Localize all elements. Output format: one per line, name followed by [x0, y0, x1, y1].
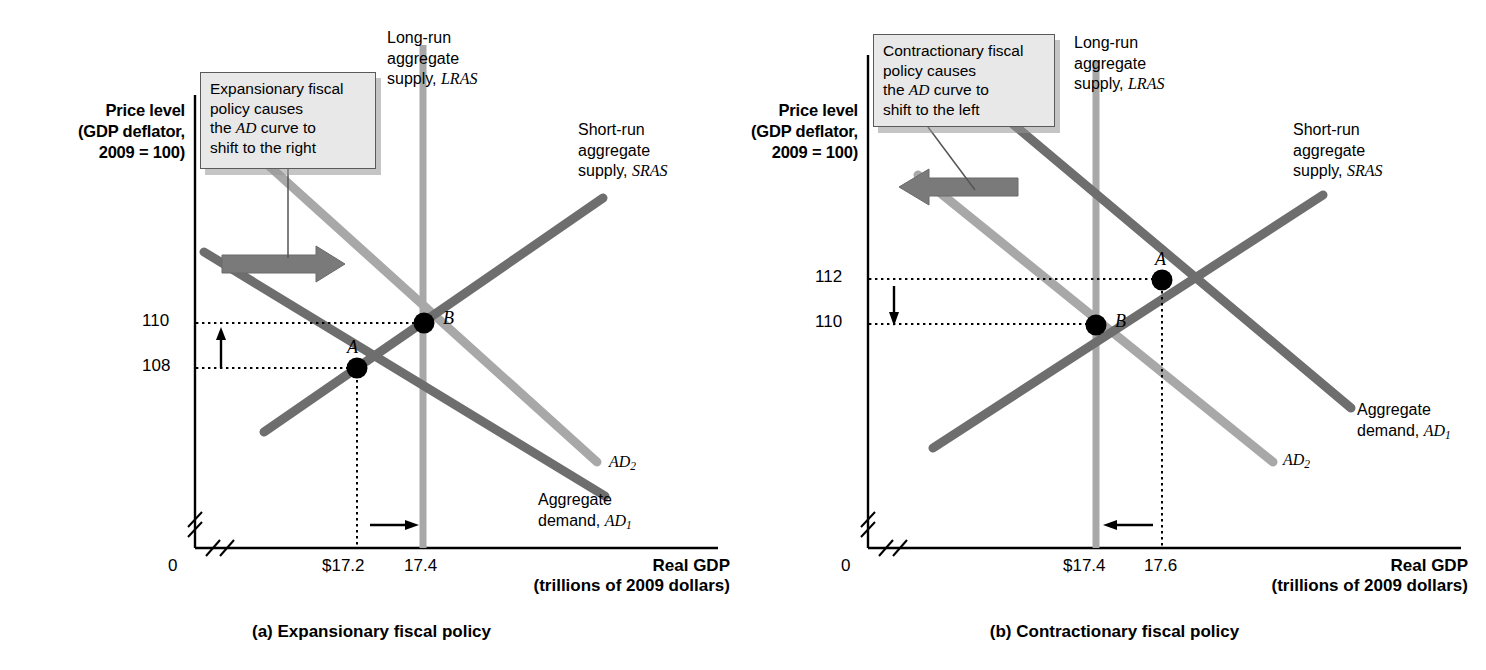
ad2-label: AD2 [609, 452, 636, 477]
ad1-label-line2: demand, AD1 [538, 511, 632, 536]
y-tick-110: 110 [142, 311, 169, 331]
sras-label: Short-run aggregate supply, SRAS [1293, 120, 1383, 182]
point-b-marker [1086, 315, 1107, 336]
origin-label: 0 [841, 556, 850, 576]
figure-root: Price level (GDP deflator, 2009 = 100) 1… [0, 0, 1486, 670]
callout-line3: the AD curve to [210, 118, 367, 138]
ad1-label-line2: demand, AD1 [1357, 421, 1451, 446]
gdp-decrease-arrow-head [1103, 520, 1117, 530]
price-decrease-arrow-head [889, 312, 899, 326]
point-b-label: B [443, 308, 454, 329]
price-increase-arrow-head [216, 327, 226, 340]
point-a-label: A [1155, 249, 1166, 270]
origin-label: 0 [168, 556, 177, 576]
panel-contractionary: Price level (GDP deflator, 2009 = 100) 1… [743, 0, 1486, 670]
point-a-marker [347, 358, 368, 379]
x-axis-title: Real GDP (trillions of 2009 dollars) [1198, 556, 1468, 596]
y-tick-112: 112 [815, 267, 842, 287]
point-a-marker [1152, 270, 1173, 291]
sras-label: Short-run aggregate supply, SRAS [578, 120, 668, 182]
x-tick-17-2: $17.2 [322, 556, 365, 576]
x-axis-title: Real GDP (trillions of 2009 dollars) [460, 556, 730, 596]
lras-label: Long-run aggregate supply, LRAS [387, 28, 477, 90]
sras-label-line3: supply, SRAS [1293, 161, 1383, 182]
ad2-label: AD2 [1283, 450, 1310, 475]
x-tick-17-4: $17.4 [1063, 556, 1106, 576]
callout-line3: the AD curve to [883, 80, 1046, 100]
y-tick-108: 108 [142, 356, 170, 376]
sras-label-line3: supply, SRAS [578, 161, 668, 182]
x-tick-17-4: 17.4 [404, 556, 437, 576]
point-b-label: B [1115, 311, 1126, 332]
lras-label-line3: supply, LRAS [387, 69, 477, 90]
callout-expansionary: Expansionary fiscal policy causes the AD… [200, 72, 376, 169]
gdp-increase-arrow-head [405, 520, 419, 530]
ad1-label: Aggregate demand, AD1 [538, 490, 632, 535]
callout-contractionary: Contractionary fiscal policy causes the … [873, 34, 1055, 127]
y-tick-110: 110 [815, 312, 842, 332]
lras-label: Long-run aggregate supply, LRAS [1074, 33, 1164, 95]
panel-a-caption: (a) Expansionary fiscal policy [0, 622, 743, 642]
panel-expansionary: Price level (GDP deflator, 2009 = 100) 1… [0, 0, 743, 670]
point-b-marker [414, 313, 435, 334]
ad1-label: Aggregate demand, AD1 [1357, 400, 1451, 445]
panel-b-caption: (b) Contractionary fiscal policy [743, 622, 1486, 642]
y-axis-title: Price level (GDP deflator, 2009 = 100) [693, 100, 858, 163]
y-axis-title: Price level (GDP deflator, 2009 = 100) [20, 100, 185, 163]
x-tick-17-6: 17.6 [1144, 556, 1177, 576]
point-a-label: A [347, 337, 358, 358]
lras-label-line3: supply, LRAS [1074, 74, 1164, 95]
